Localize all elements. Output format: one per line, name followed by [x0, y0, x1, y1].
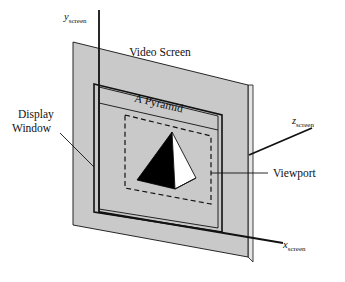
display-window-label-line2: Window [12, 122, 52, 134]
z-axis-label: zscreen [291, 115, 314, 129]
y-axis-label-subscript: screen [69, 17, 87, 25]
x-axis-label: xscreen [282, 239, 306, 253]
viewport-label: Viewport [273, 167, 317, 180]
diagram-canvas: Video Screen A Pyramid Display Window Vi… [0, 0, 345, 282]
video-screen-side-edge [248, 85, 253, 262]
y-axis-label: yscreen [63, 11, 87, 25]
z-axis-line [249, 128, 312, 155]
figure-root: Video Screen A Pyramid Display Window Vi… [0, 0, 345, 282]
x-axis-label-subscript: screen [288, 245, 306, 253]
display-window-label-line1: Display [18, 108, 54, 121]
video-screen-label: Video Screen [129, 46, 191, 58]
z-axis-label-subscript: screen [296, 121, 314, 129]
